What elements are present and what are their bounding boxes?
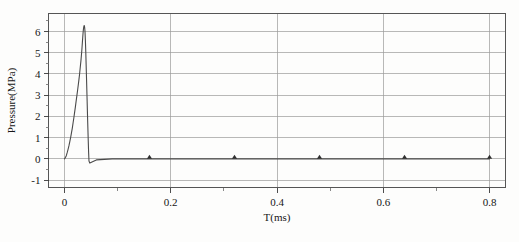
x-tick-label: 0.2 bbox=[164, 196, 178, 208]
series-marker-triangle bbox=[232, 155, 237, 159]
y-tick-label: 6 bbox=[35, 26, 41, 38]
y-tick-label: 1 bbox=[35, 132, 41, 144]
x-tick-label: 0.8 bbox=[483, 196, 497, 208]
y-tick-label: 3 bbox=[35, 89, 41, 101]
y-tick-label: 0 bbox=[35, 153, 41, 165]
y-tick-label: -1 bbox=[31, 174, 40, 186]
x-axis-title: T(ms) bbox=[264, 211, 291, 224]
series-marker-triangle bbox=[402, 155, 407, 159]
chart-canvas: -1012345600.20.40.60.8T(ms)Pressure(MPa) bbox=[0, 0, 519, 242]
x-tick-label: 0.6 bbox=[376, 196, 390, 208]
series-marker-triangle bbox=[147, 155, 152, 159]
y-axis-title: Pressure(MPa) bbox=[5, 67, 18, 133]
y-tick-label: 2 bbox=[35, 110, 41, 122]
series-marker-triangle bbox=[317, 155, 322, 159]
x-tick-label: 0.4 bbox=[270, 196, 284, 208]
y-tick-label: 5 bbox=[35, 47, 41, 59]
pressure-time-chart: -1012345600.20.40.60.8T(ms)Pressure(MPa) bbox=[0, 0, 519, 242]
y-tick-label: 4 bbox=[35, 68, 41, 80]
x-tick-label: 0 bbox=[62, 196, 68, 208]
series-marker-triangle bbox=[487, 155, 492, 159]
